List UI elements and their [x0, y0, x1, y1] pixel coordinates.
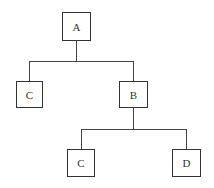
connector-to-d: [186, 129, 187, 149]
node-d: D: [172, 149, 201, 177]
connector-a-horizontal: [29, 61, 134, 62]
node-a-label: A: [73, 21, 81, 33]
node-b: B: [119, 81, 148, 108]
connector-a-down: [76, 41, 77, 61]
node-c-left: C: [16, 81, 43, 108]
connector-b-horizontal: [81, 129, 187, 130]
connector-to-b: [133, 61, 134, 81]
node-c-left-label: C: [26, 89, 33, 101]
connector-to-c2: [81, 129, 82, 149]
node-a: A: [62, 12, 91, 41]
connector-b-down: [133, 108, 134, 129]
node-d-label: D: [183, 157, 191, 169]
connector-to-c1: [29, 61, 30, 81]
node-c-bottom-label: C: [77, 157, 84, 169]
node-c-bottom: C: [67, 149, 95, 177]
node-b-label: B: [130, 89, 137, 101]
